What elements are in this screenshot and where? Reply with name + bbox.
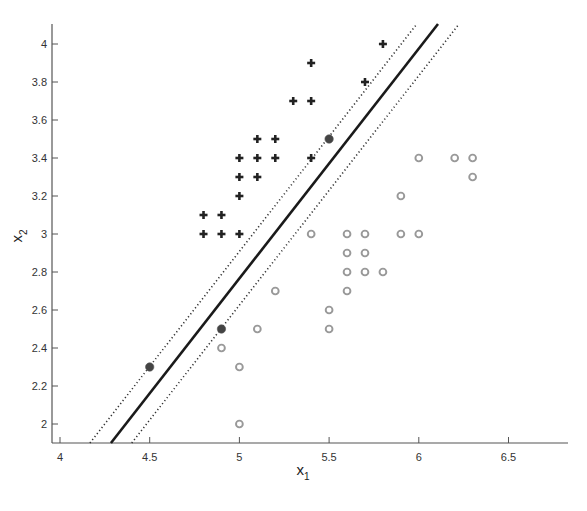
- y-tick-label: 2.6: [32, 304, 47, 316]
- data-points: [146, 40, 477, 427]
- open-circle-marker: [344, 231, 351, 238]
- open-circle-marker: [254, 326, 261, 333]
- plus-marker: [235, 230, 243, 238]
- plus-marker: [271, 135, 279, 143]
- plus-marker: [361, 78, 369, 86]
- x-tick-label: 5.5: [321, 451, 336, 463]
- open-circle-marker: [308, 231, 315, 238]
- open-circle-marker: [236, 421, 243, 428]
- y-tick-label: 2.8: [32, 266, 47, 278]
- open-circle-marker: [218, 345, 225, 352]
- y-ticks: 22.22.42.62.833.23.43.63.84: [32, 38, 58, 430]
- open-circle-marker: [272, 288, 279, 295]
- open-circle-marker: [362, 231, 369, 238]
- plus-marker: [217, 230, 225, 238]
- y-tick-label: 3: [41, 228, 47, 240]
- open-circle-marker: [451, 155, 458, 162]
- margin-line: [90, 25, 416, 443]
- y-tick-label: 3.8: [32, 76, 47, 88]
- plus-marker: [307, 97, 315, 105]
- y-tick-label: 4: [41, 38, 47, 50]
- open-circle-marker: [415, 155, 422, 162]
- open-circle-marker: [236, 364, 243, 371]
- support-vector-marker: [217, 325, 225, 333]
- x-tick-label: 6.5: [501, 451, 516, 463]
- plus-marker: [271, 154, 279, 162]
- open-circle-marker: [397, 231, 404, 238]
- x-tick-label: 4.5: [142, 451, 157, 463]
- open-circle-marker: [415, 231, 422, 238]
- support-vector-marker: [146, 363, 154, 371]
- plus-marker: [289, 97, 297, 105]
- x-tick-label: 4: [57, 451, 63, 463]
- x-tick-label: 5: [236, 451, 242, 463]
- open-circle-marker: [469, 155, 476, 162]
- y-tick-label: 2: [41, 418, 47, 430]
- plus-marker: [235, 154, 243, 162]
- plus-marker: [253, 173, 261, 181]
- plus-marker: [235, 192, 243, 200]
- x-tick-label: 6: [416, 451, 422, 463]
- y-axis-label: x2: [8, 229, 29, 243]
- plus-marker: [307, 59, 315, 67]
- y-tick-label: 3.2: [32, 190, 47, 202]
- x-axis-label: x1: [296, 461, 310, 482]
- plus-marker: [235, 173, 243, 181]
- plus-marker: [307, 154, 315, 162]
- open-circle-marker: [326, 307, 333, 314]
- open-circle-marker: [344, 250, 351, 257]
- plus-marker: [217, 211, 225, 219]
- axes: 44.555.566.5 22.22.42.62.833.23.43.63.84: [32, 24, 568, 463]
- open-circle-marker: [326, 326, 333, 333]
- margin-line: [132, 25, 459, 443]
- open-circle-marker: [344, 288, 351, 295]
- y-tick-label: 3.6: [32, 114, 47, 126]
- plus-marker: [200, 211, 208, 219]
- plus-marker: [379, 40, 387, 48]
- y-tick-label: 2.4: [32, 342, 47, 354]
- open-circle-marker: [362, 269, 369, 276]
- plus-marker: [253, 135, 261, 143]
- svm-scatter-chart: 44.555.566.5 22.22.42.62.833.23.43.63.84…: [0, 0, 587, 511]
- support-vector-marker: [325, 135, 333, 143]
- open-circle-marker: [469, 174, 476, 181]
- open-circle-marker: [344, 269, 351, 276]
- open-circle-marker: [397, 193, 404, 200]
- plus-marker: [200, 230, 208, 238]
- decision-boundary-line: [111, 24, 438, 443]
- y-tick-label: 2.2: [32, 380, 47, 392]
- decision-lines: [90, 24, 458, 443]
- y-tick-label: 3.4: [32, 152, 47, 164]
- open-circle-marker: [380, 269, 387, 276]
- x-ticks: 44.555.566.5: [57, 437, 516, 463]
- plus-marker: [253, 154, 261, 162]
- open-circle-marker: [362, 250, 369, 257]
